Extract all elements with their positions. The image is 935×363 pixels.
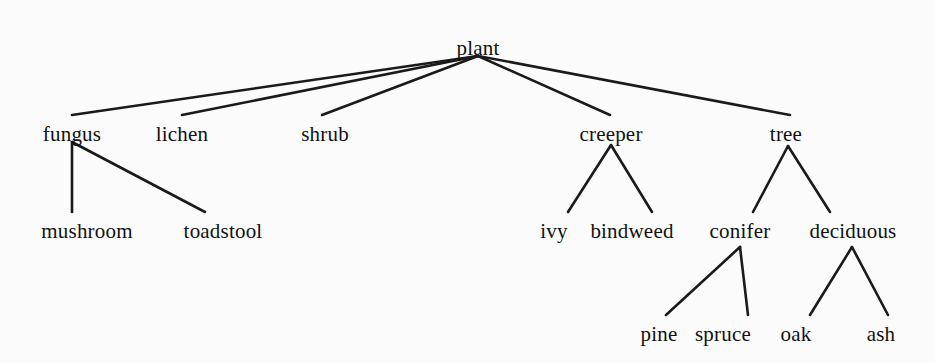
tree-edge-deciduous-to-oak <box>810 247 852 315</box>
tree-edge-creeper-to-bindweed <box>611 145 652 212</box>
tree-node-ash[interactable]: ash <box>867 324 896 345</box>
tree-node-plant[interactable]: plant <box>457 38 500 59</box>
tree-node-ivy[interactable]: ivy <box>540 221 567 242</box>
tree-edge-tree-to-deciduous <box>788 146 830 212</box>
tree-node-mushroom[interactable]: mushroom <box>41 221 132 242</box>
tree-edge-fungus-to-toadstool <box>72 142 205 212</box>
tree-node-bindweed[interactable]: bindweed <box>590 221 673 242</box>
tree-node-toadstool[interactable]: toadstool <box>184 221 263 242</box>
tree-node-shrub[interactable]: shrub <box>301 124 349 145</box>
tree-node-lichen[interactable]: lichen <box>156 124 209 145</box>
taxonomy-tree-diagram: plantfunguslichenshrubcreepertreemushroo… <box>0 0 935 363</box>
edges-group <box>72 56 888 315</box>
tree-node-deciduous[interactable]: deciduous <box>810 221 897 242</box>
tree-edge-plant-to-tree <box>478 56 790 115</box>
tree-edge-conifer-to-pine <box>666 247 740 315</box>
tree-node-oak[interactable]: oak <box>781 324 812 345</box>
tree-edge-conifer-to-spruce <box>740 247 748 315</box>
tree-edge-plant-to-lichen <box>182 56 478 115</box>
tree-node-fungus[interactable]: fungus <box>43 124 101 145</box>
tree-node-conifer[interactable]: conifer <box>710 221 771 242</box>
tree-node-tree[interactable]: tree <box>770 124 802 145</box>
tree-edge-plant-to-shrub <box>322 56 478 115</box>
tree-edge-creeper-to-ivy <box>568 145 611 212</box>
tree-edge-tree-to-conifer <box>753 146 788 212</box>
tree-node-creeper[interactable]: creeper <box>579 124 642 145</box>
tree-node-pine[interactable]: pine <box>641 324 678 345</box>
tree-edge-plant-to-creeper <box>478 56 610 115</box>
tree-edge-deciduous-to-ash <box>852 247 888 315</box>
tree-edge-plant-to-fungus <box>72 56 478 115</box>
tree-node-spruce[interactable]: spruce <box>695 324 751 345</box>
